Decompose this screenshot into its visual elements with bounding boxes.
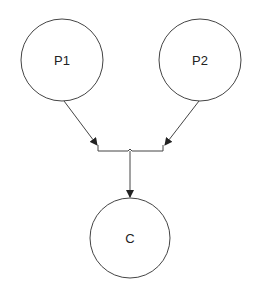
diagram-canvas: P1 P2 C bbox=[0, 0, 255, 288]
node-p1: P1 bbox=[21, 19, 103, 101]
node-c: C bbox=[90, 198, 170, 278]
node-p2: P2 bbox=[159, 19, 241, 101]
node-c-label: C bbox=[125, 231, 134, 246]
node-p2-label: P2 bbox=[192, 53, 208, 68]
edge-p1-to-junction bbox=[64, 101, 97, 145]
junction-bracket bbox=[98, 145, 163, 151]
node-p1-label: P1 bbox=[54, 53, 70, 68]
edge-p2-to-junction bbox=[165, 101, 199, 145]
